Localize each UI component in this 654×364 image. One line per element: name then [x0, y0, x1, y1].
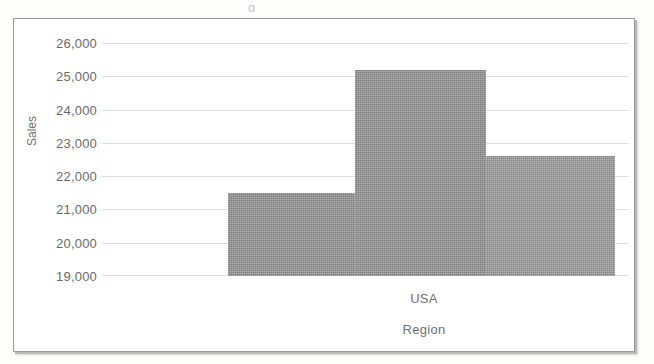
y-axis-tick-labels: 26,000 25,000 24,000 23,000 22,000 21,00… — [34, 43, 97, 276]
scan-artifact-glyph: g — [248, 0, 274, 12]
bar-1[interactable] — [228, 193, 355, 276]
y-tick-label: 22,000 — [56, 169, 97, 184]
x-axis-title: Region — [364, 322, 484, 337]
bar-3[interactable] — [486, 156, 615, 276]
scanned-page: g Sales 26,000 25,000 24,000 23,000 22,0… — [0, 0, 654, 364]
y-tick-label: 19,000 — [56, 269, 97, 284]
y-tick-label: 24,000 — [56, 102, 97, 117]
y-tick-label: 20,000 — [56, 235, 97, 250]
x-category-label-usa: USA — [364, 291, 484, 306]
y-tick-label: 21,000 — [56, 202, 97, 217]
bar-2[interactable] — [355, 70, 486, 276]
plot-area — [102, 43, 629, 276]
y-tick-label: 25,000 — [56, 69, 97, 84]
chart-frame: Sales 26,000 25,000 24,000 23,000 22,000… — [13, 18, 635, 352]
y-tick-label: 23,000 — [56, 135, 97, 150]
gridline — [102, 43, 629, 44]
y-tick-label: 26,000 — [56, 36, 97, 51]
